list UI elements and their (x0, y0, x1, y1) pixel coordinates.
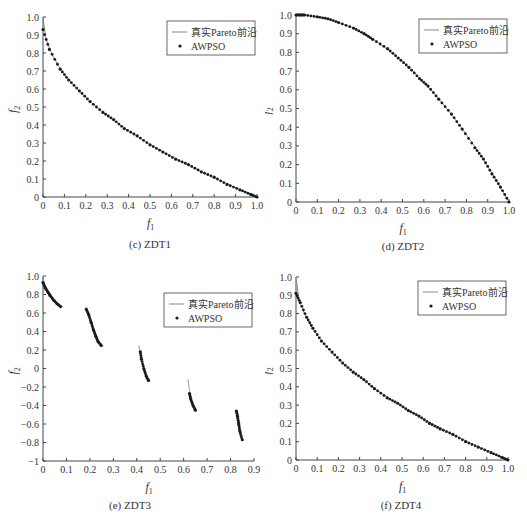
x-tick-label: 0.2 (80, 200, 93, 211)
legend-label-true-front: 真实Pareto前沿 (191, 26, 257, 38)
y-tick-label: 0.6 (27, 308, 40, 319)
chart-panel-c: 00.10.20.30.40.50.60.70.80.91.000.10.20.… (0, 0, 265, 260)
x-tick-label: 0.6 (417, 463, 430, 474)
y-axis-label: f2 (265, 107, 275, 114)
y-tick-label: 1.0 (27, 12, 40, 23)
chart-panel-d: 00.10.20.30.40.50.60.70.80.91.000.10.20.… (265, 0, 527, 260)
x-tick-label: 0.4 (375, 205, 388, 216)
y-tick-label: 0 (34, 363, 39, 374)
y-tick-label: 0.1 (280, 178, 293, 189)
x-tick-label: 0.2 (332, 463, 345, 474)
y-tick-label: 0 (287, 197, 292, 208)
legend-label-true-front: 真实Pareto前沿 (443, 24, 509, 36)
x-tick-label: 0.2 (84, 464, 97, 475)
x-tick-label: 0.9 (481, 205, 494, 216)
caption-e: (e) ZDT3 (70, 499, 190, 511)
x-tick-label: 0 (41, 200, 46, 211)
legend-marker-icon (175, 316, 178, 319)
x-tick-label: 0 (294, 205, 299, 216)
x-tick-label: 0.3 (107, 464, 120, 475)
x-axis-label: f1 (400, 221, 407, 237)
caption-f: (f) ZDT4 (341, 499, 461, 511)
x-tick-label: 0.4 (131, 464, 144, 475)
y-tick-label: 0 (287, 455, 292, 466)
y-tick-label: 0.8 (27, 48, 40, 59)
x-tick-label: 0.1 (311, 463, 324, 474)
x-axis-label: f1 (399, 479, 406, 495)
y-tick-label: 0.4 (27, 326, 40, 337)
x-tick-label: 0.2 (332, 205, 345, 216)
chart-panel-f: 00.10.20.30.40.50.60.70.80.91.000.10.20.… (265, 260, 527, 525)
legend: 真实Pareto前沿AWPSO (167, 21, 257, 55)
y-tick-label: 0 (34, 192, 39, 203)
x-tick-label: 0.3 (101, 200, 114, 211)
x-tick-label: 0.7 (439, 205, 452, 216)
x-tick-label: 0.5 (144, 200, 157, 211)
caption-c: (c) ZDT1 (90, 238, 210, 250)
x-tick-label: 0.6 (418, 205, 431, 216)
y-tick-label: 0.5 (280, 103, 293, 114)
legend-marker-icon (430, 42, 433, 45)
y-tick-label: 0.6 (27, 84, 40, 95)
y-tick-label: 0.9 (27, 30, 40, 41)
x-tick-label: 0.3 (353, 463, 366, 474)
legend-label-awpso: AWPSO (442, 301, 476, 312)
caption-d: (d) ZDT2 (343, 240, 463, 252)
y-tick-label: 0.8 (280, 47, 293, 58)
y-tick-label: 0.1 (27, 174, 40, 185)
legend-label-true-front: 真实Pareto前沿 (188, 298, 254, 310)
x-tick-label: 0.8 (459, 463, 472, 474)
legend-label-awpso: AWPSO (443, 39, 477, 50)
y-tick-label: 0.5 (27, 102, 40, 113)
x-tick-label: 0.7 (187, 200, 200, 211)
chart-panel-e: 00.10.20.30.40.50.60.70.80.9−1−0.8−0.6−0… (0, 260, 265, 525)
y-tick-label: 0.7 (27, 66, 40, 77)
x-tick-label: 0.5 (154, 464, 167, 475)
y-tick-label: 0.8 (280, 308, 293, 319)
y-tick-label: −0.2 (21, 382, 39, 393)
legend-label-awpso: AWPSO (188, 313, 222, 324)
x-tick-label: 1.0 (502, 463, 515, 474)
y-tick-label: 1.0 (280, 272, 293, 283)
y-tick-label: 0.6 (280, 345, 293, 356)
y-tick-label: 0.2 (280, 159, 293, 170)
x-axis-label: f1 (146, 480, 153, 496)
y-tick-label: 0.2 (280, 418, 293, 429)
y-tick-label: 0.5 (280, 363, 293, 374)
x-tick-label: 0.6 (177, 464, 190, 475)
x-tick-label: 0.5 (396, 205, 409, 216)
y-tick-label: 0.3 (280, 400, 293, 411)
plot-area-f: 00.10.20.30.40.50.60.70.80.91.000.10.20.… (265, 260, 527, 525)
x-tick-label: 0.7 (201, 464, 214, 475)
y-tick-label: −0.4 (21, 400, 39, 411)
x-tick-label: 0.8 (208, 200, 221, 211)
y-tick-label: −0.6 (21, 419, 39, 430)
x-tick-label: 0 (41, 464, 46, 475)
legend: 真实Pareto前沿AWPSO (419, 19, 509, 53)
x-tick-label: 0.3 (354, 205, 367, 216)
x-tick-label: 0.1 (60, 464, 73, 475)
plot-area-c: 00.10.20.30.40.50.60.70.80.91.000.10.20.… (0, 0, 265, 260)
x-tick-label: 0.4 (122, 200, 135, 211)
x-tick-label: 0.1 (58, 200, 71, 211)
y-tick-label: −1 (28, 456, 39, 467)
legend: 真实Pareto前沿AWPSO (164, 293, 254, 327)
x-tick-label: 0.8 (460, 205, 473, 216)
x-tick-label: 0.7 (438, 463, 451, 474)
y-axis-label: f2 (6, 367, 22, 374)
y-tick-label: 0.3 (27, 138, 40, 149)
y-tick-label: 0.6 (280, 84, 293, 95)
y-tick-label: 0.4 (280, 122, 293, 133)
x-tick-label: 0.6 (165, 200, 178, 211)
x-tick-label: 0.5 (396, 463, 409, 474)
y-tick-label: 0.1 (280, 436, 293, 447)
x-tick-label: 0.9 (229, 200, 242, 211)
x-tick-label: 1.0 (251, 200, 264, 211)
x-tick-label: 0.4 (375, 463, 388, 474)
y-tick-label: −0.8 (21, 437, 39, 448)
y-tick-label: 0.7 (280, 326, 293, 337)
x-tick-label: 0.9 (481, 463, 494, 474)
legend-label-awpso: AWPSO (191, 41, 225, 52)
y-tick-label: 0.9 (280, 290, 293, 301)
y-axis-label: f2 (265, 367, 275, 374)
